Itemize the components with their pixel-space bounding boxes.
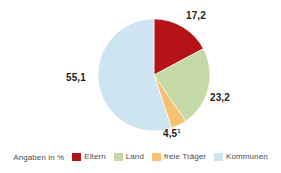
- pie-plot-area: 17,2 23,2 4,51 55,1: [0, 0, 281, 143]
- chart-legend: Angaben in % ElternLandfreie TrägerKommu…: [0, 148, 281, 166]
- legend-caption: Angaben in %: [13, 153, 64, 162]
- legend-swatch-land: [114, 153, 123, 161]
- slice-value-eltern: 17,2: [186, 10, 206, 21]
- pie-svg: [0, 0, 281, 143]
- pie-slice-group: [98, 19, 210, 131]
- slice-value-kommunen: 55,1: [66, 72, 86, 83]
- legend-swatch-eltern: [72, 153, 81, 161]
- legend-label-eltern: Eltern: [84, 153, 106, 161]
- legend-swatch-kommunen: [214, 153, 223, 161]
- legend-label-land: Land: [126, 153, 144, 161]
- slice-value-label-eltern: 17,2: [186, 11, 206, 21]
- legend-item-freie-tr-ger[interactable]: freie Träger: [152, 153, 206, 161]
- slice-value-label-freie-traeger: 4,51: [163, 128, 181, 139]
- footnote-marker: 1: [177, 128, 180, 134]
- legend-item-eltern[interactable]: Eltern: [72, 153, 106, 161]
- legend-label-kommunen: Kommunen: [226, 153, 268, 161]
- legend-item-kommunen[interactable]: Kommunen: [214, 153, 268, 161]
- slice-value-land: 23,2: [210, 92, 230, 103]
- slice-value-label-land: 23,2: [210, 93, 230, 103]
- legend-swatch-freie-tr-ger: [152, 153, 161, 161]
- slice-value-label-kommunen: 55,1: [66, 73, 86, 83]
- legend-item-list: ElternLandfreie TrägerKommunen: [72, 153, 268, 161]
- legend-item-land[interactable]: Land: [114, 153, 144, 161]
- pie-chart-figure: 17,2 23,2 4,51 55,1 Angaben in % ElternL…: [0, 0, 281, 173]
- legend-label-freie-tr-ger: freie Träger: [164, 153, 206, 161]
- slice-value-freie-traeger: 4,5: [163, 128, 177, 139]
